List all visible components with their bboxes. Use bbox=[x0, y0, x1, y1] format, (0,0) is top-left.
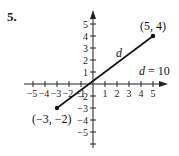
point-b-label: (5, 4) bbox=[140, 19, 166, 33]
svg-text:−5: −5 bbox=[27, 88, 38, 99]
y-axis-arrow-icon bbox=[90, 10, 96, 19]
svg-text:5: 5 bbox=[151, 88, 156, 99]
svg-text:3: 3 bbox=[127, 88, 132, 99]
point-a-label: (−3, −2) bbox=[32, 112, 72, 126]
svg-text:−4: −4 bbox=[39, 88, 50, 99]
x-axis-arrow-icon bbox=[159, 81, 168, 87]
point-a-dot bbox=[55, 106, 59, 110]
svg-text:4: 4 bbox=[83, 31, 88, 42]
point-b-dot bbox=[151, 34, 155, 38]
svg-text:−2: −2 bbox=[77, 91, 88, 102]
svg-text:3: 3 bbox=[83, 43, 88, 54]
x-tick-labels: −5 −4 −3 −2 −1 1 2 3 4 5 bbox=[27, 88, 156, 99]
segment-label: d bbox=[116, 46, 123, 60]
y-tick-labels: 5 4 3 2 1 −2 −3 −4 −5 bbox=[77, 19, 88, 138]
svg-text:4: 4 bbox=[139, 88, 144, 99]
svg-text:2: 2 bbox=[83, 55, 88, 66]
svg-text:2: 2 bbox=[115, 88, 120, 99]
svg-text:−3: −3 bbox=[77, 103, 88, 114]
svg-text:−4: −4 bbox=[77, 115, 88, 126]
distance-annotation: d = 10 bbox=[139, 64, 170, 78]
svg-text:5: 5 bbox=[83, 19, 88, 30]
svg-text:−5: −5 bbox=[77, 127, 88, 138]
svg-text:−3: −3 bbox=[51, 88, 62, 99]
svg-text:1: 1 bbox=[103, 88, 108, 99]
coordinate-plane: −5 −4 −3 −2 −1 1 2 3 4 5 5 4 3 2 1 −2 −3… bbox=[0, 0, 179, 156]
svg-text:1: 1 bbox=[83, 67, 88, 78]
